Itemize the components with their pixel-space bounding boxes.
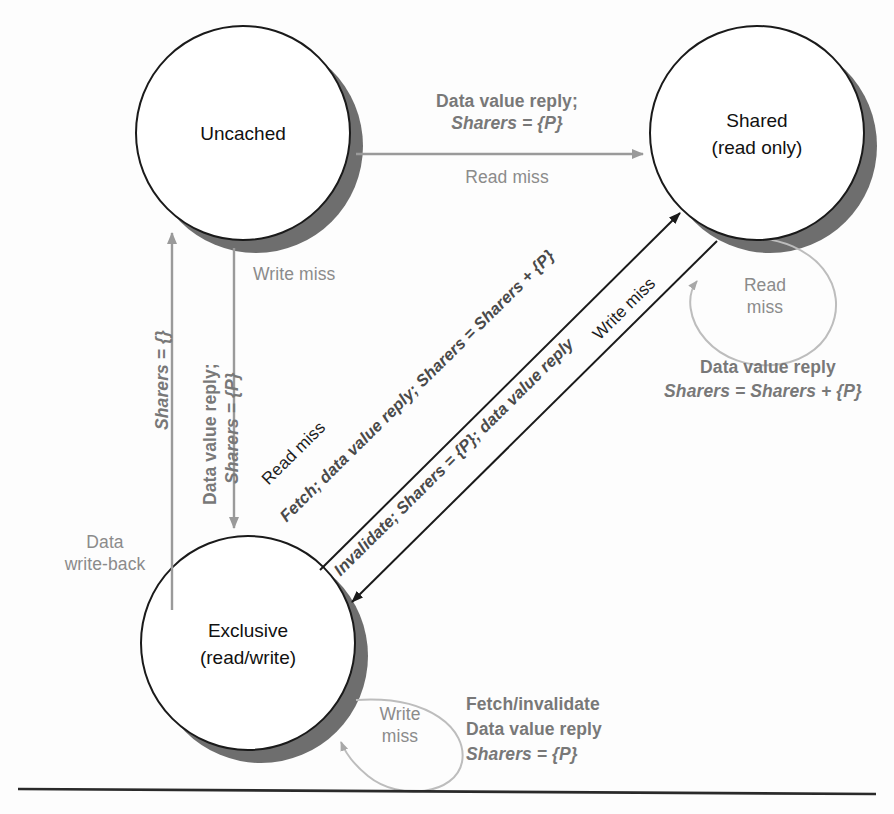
label-shared-loop-event-2: miss: [710, 297, 820, 318]
label-exclusive-to-uncached-event-1: Data: [50, 532, 160, 553]
state-label-shared-sub: (read only): [712, 137, 803, 158]
label-exclusive-to-uncached-action: Sharers = {}: [152, 330, 173, 430]
label-shared-loop-action-2: Sharers = Sharers + {P}: [638, 381, 888, 402]
state-label-shared: Shared: [726, 110, 787, 131]
label-exclusive-loop-event-2: miss: [355, 726, 445, 747]
label-uncached-to-shared-action-1: Data value reply;: [392, 91, 622, 112]
label-uncached-to-exclusive-action-2: Sharers = {P}: [222, 372, 243, 484]
label-exclusive-loop-action-1: Fetch/invalidate: [466, 694, 600, 715]
label-uncached-to-shared-event: Read miss: [392, 167, 622, 188]
state-label-exclusive-sub: (read/write): [200, 647, 296, 668]
label-shared-loop-action-1: Data value reply: [648, 357, 888, 378]
label-exclusive-to-uncached-event-2: write-back: [40, 554, 170, 575]
state-diagram-figure: Uncached Shared (read only) Exclusive (r…: [0, 0, 894, 814]
arrow-exclusive-to-shared[interactable]: [320, 213, 680, 570]
label-exclusive-loop-action-2: Data value reply: [466, 719, 602, 740]
state-label-uncached: Uncached: [200, 123, 286, 144]
label-uncached-to-exclusive-action-1: Data value reply;: [200, 363, 221, 505]
label-exclusive-loop-event-1: Write: [355, 704, 445, 725]
label-uncached-to-exclusive-event: Write miss: [253, 264, 335, 285]
state-label-exclusive: Exclusive: [208, 620, 288, 641]
state-circle-shared[interactable]: [650, 26, 864, 240]
label-shared-loop-event-1: Read: [710, 275, 820, 296]
label-uncached-to-shared-action-2: Sharers = {P}: [392, 113, 622, 134]
arrow-shared-to-exclusive[interactable]: [352, 241, 717, 602]
label-exclusive-loop-action-3: Sharers = {P}: [466, 744, 578, 765]
bottom-rule: [18, 789, 876, 794]
